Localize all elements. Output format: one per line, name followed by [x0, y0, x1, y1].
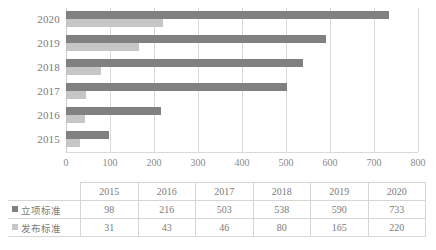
series-name-label: 立项标准	[21, 205, 61, 216]
bar-group-2019	[66, 32, 418, 56]
table-cell-value: 98	[81, 201, 139, 219]
table-body: 立项标准98216503538590733发布标准31434680165220	[8, 201, 426, 237]
table-cell-value: 733	[368, 201, 426, 219]
plot-area	[66, 8, 418, 152]
bar-2016-series-1	[66, 107, 161, 115]
bar-2015-series-1	[66, 131, 109, 139]
table-cell-value: 43	[138, 219, 196, 237]
bar-2019-series-2	[66, 43, 139, 51]
x-axis-tick-label: 0	[46, 157, 86, 168]
y-axis-category-label: 2019	[2, 38, 60, 49]
table-cell-value: 80	[253, 219, 311, 237]
x-axis-tick-label: 600	[310, 157, 350, 168]
table-column-header: 2015	[81, 183, 139, 201]
bar-group-2018	[66, 56, 418, 80]
bar-group-2020	[66, 8, 418, 32]
table-row: 立项标准98216503538590733	[8, 201, 426, 219]
y-axis-category-label: 2016	[2, 110, 60, 121]
category-axis-line	[66, 152, 418, 153]
bar-group-2016	[66, 104, 418, 128]
data-table: 201520162017201820192020 立项标准98216503538…	[8, 182, 426, 237]
gridline-800	[418, 8, 419, 152]
x-axis-tick-label: 300	[178, 157, 218, 168]
table-cell-value: 503	[196, 201, 254, 219]
bar-2020-series-1	[66, 11, 389, 19]
series-name-label: 发布标准	[21, 223, 61, 234]
y-axis-category-label: 2015	[2, 134, 60, 145]
table-row-header: 发布标准	[8, 219, 81, 237]
table-cell-value: 220	[368, 219, 426, 237]
table-row-header: 立项标准	[8, 201, 81, 219]
table-row: 发布标准31434680165220	[8, 219, 426, 237]
bar-chart: 0100200300400500600700800202020192018201…	[0, 0, 436, 176]
bar-2018-series-1	[66, 59, 303, 67]
bar-2017-series-2	[66, 91, 86, 99]
table-cell-value: 590	[311, 201, 369, 219]
bar-2016-series-2	[66, 115, 85, 123]
bar-group-2015	[66, 128, 418, 152]
chart-page: 0100200300400500600700800202020192018201…	[0, 0, 436, 250]
y-axis-category-label: 2020	[2, 14, 60, 25]
table-cell-value: 31	[81, 219, 139, 237]
bar-2017-series-1	[66, 83, 287, 91]
table-cell-value: 538	[253, 201, 311, 219]
table-cell-value: 165	[311, 219, 369, 237]
x-axis-tick-label: 400	[222, 157, 262, 168]
x-axis-tick-label: 100	[90, 157, 130, 168]
table-cell-value: 216	[138, 201, 196, 219]
light-gray-square-icon	[12, 224, 18, 230]
bar-2020-series-2	[66, 19, 163, 27]
table-column-header: 2016	[138, 183, 196, 201]
dark-gray-square-icon	[12, 206, 18, 212]
bar-group-2017	[66, 80, 418, 104]
y-axis-category-label: 2017	[2, 86, 60, 97]
table-column-header: 2019	[311, 183, 369, 201]
x-axis-tick-label: 200	[134, 157, 174, 168]
table-column-header: 2017	[196, 183, 254, 201]
bar-2015-series-2	[66, 139, 80, 147]
table-corner-cell	[8, 183, 81, 201]
bar-2019-series-1	[66, 35, 326, 43]
x-axis-tick-label: 800	[398, 157, 436, 168]
x-axis-tick-label: 700	[354, 157, 394, 168]
table-cell-value: 46	[196, 219, 254, 237]
bar-2018-series-2	[66, 67, 101, 75]
x-axis-tick-label: 500	[266, 157, 306, 168]
table-column-header: 2018	[253, 183, 311, 201]
y-axis-category-label: 2018	[2, 62, 60, 73]
table-column-header: 2020	[368, 183, 426, 201]
table-header-row: 201520162017201820192020	[8, 183, 426, 201]
